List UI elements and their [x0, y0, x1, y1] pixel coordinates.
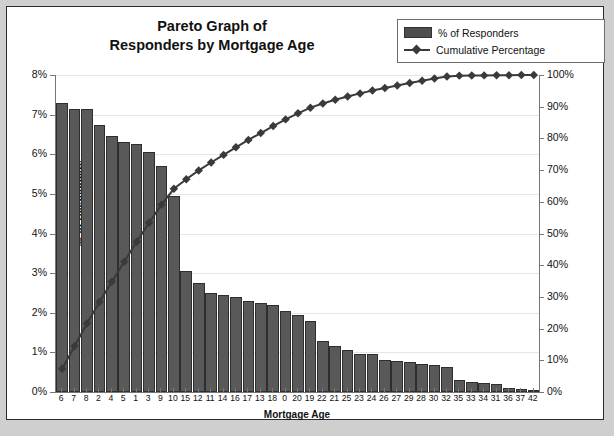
cumulative-line	[62, 75, 534, 369]
y-tick-label: 3%	[17, 266, 47, 278]
x-tick-label: 21	[328, 393, 340, 403]
chart-page: Pareto Graph of Responders by Mortgage A…	[0, 0, 614, 436]
y-tick-mark	[50, 154, 55, 155]
x-tick-mark	[409, 388, 410, 392]
y-tick-mark	[50, 75, 55, 76]
x-tick-label: 23	[353, 393, 365, 403]
y-tick-label: 5%	[17, 187, 47, 199]
diamond-marker	[343, 92, 351, 100]
diamond-marker	[418, 76, 426, 84]
diamond-marker	[443, 72, 451, 80]
x-tick-mark	[496, 388, 497, 392]
diamond-marker	[319, 99, 327, 107]
x-tick-label: 32	[440, 393, 452, 403]
chart-title: Pareto Graph of Responders by Mortgage A…	[47, 17, 377, 55]
x-tick-mark	[446, 388, 447, 392]
x-tick-mark	[98, 388, 99, 392]
secondary-y-tick-mark	[539, 202, 544, 203]
secondary-y-tick-label: 40%	[547, 258, 583, 270]
x-tick-label: 27	[390, 393, 402, 403]
secondary-y-tick-label: 80%	[547, 131, 583, 143]
secondary-y-tick-mark	[539, 329, 544, 330]
x-tick-mark	[148, 388, 149, 392]
y-tick-label: 7%	[17, 108, 47, 120]
chart-legend: % of Responders Cumulative Percentage	[397, 19, 605, 63]
diamond-marker	[58, 365, 66, 373]
x-tick-label: 26	[378, 393, 390, 403]
x-tick-mark	[347, 388, 348, 392]
x-tick-mark	[235, 388, 236, 392]
x-tick-mark	[210, 388, 211, 392]
secondary-y-tick-mark	[539, 360, 544, 361]
chart-title-line1: Pareto Graph of	[47, 17, 377, 36]
x-tick-label: 11	[204, 393, 216, 403]
x-tick-mark	[483, 388, 484, 392]
x-tick-label: 20	[291, 393, 303, 403]
x-tick-label: 35	[452, 393, 464, 403]
x-tick-label: 29	[402, 393, 414, 403]
diamond-marker	[306, 103, 314, 111]
diamond-marker	[455, 71, 463, 79]
diamond-marker	[70, 342, 78, 350]
bar-swatch-icon	[404, 27, 432, 38]
x-tick-mark	[322, 388, 323, 392]
x-tick-label: 1	[129, 393, 141, 403]
x-tick-label: 0	[278, 393, 290, 403]
diamond-marker	[331, 95, 339, 103]
diamond-marker	[381, 84, 389, 92]
y-tick-mark	[50, 234, 55, 235]
diamond-marker	[492, 71, 500, 79]
y-tick-label: 2%	[17, 306, 47, 318]
secondary-y-tick-label: 90%	[547, 100, 583, 112]
secondary-y-tick-mark	[539, 392, 544, 393]
x-tick-label: 13	[254, 393, 266, 403]
secondary-y-tick-label: 20%	[547, 322, 583, 334]
x-tick-mark	[471, 388, 472, 392]
x-tick-label: 25	[340, 393, 352, 403]
y-tick-label: 4%	[17, 227, 47, 239]
x-tick-label: 16	[229, 393, 241, 403]
chart-frame: Pareto Graph of Responders by Mortgage A…	[6, 6, 604, 420]
x-tick-mark	[61, 388, 62, 392]
x-tick-mark	[86, 388, 87, 392]
x-tick-mark	[384, 388, 385, 392]
secondary-y-tick-mark	[539, 138, 544, 139]
secondary-y-tick-mark	[539, 265, 544, 266]
secondary-y-tick-label: 50%	[547, 227, 583, 239]
x-tick-label: 37	[514, 393, 526, 403]
x-tick-mark	[111, 388, 112, 392]
x-tick-mark	[309, 388, 310, 392]
x-tick-mark	[136, 388, 137, 392]
y-tick-label: 1%	[17, 345, 47, 357]
x-tick-label: 31	[489, 393, 501, 403]
diamond-marker	[530, 71, 538, 79]
diamond-marker	[480, 71, 488, 79]
diamond-marker	[430, 74, 438, 82]
x-tick-mark	[74, 388, 75, 392]
secondary-y-tick-label: 10%	[547, 353, 583, 365]
x-tick-label: 10	[167, 393, 179, 403]
x-tick-label: 12	[192, 393, 204, 403]
x-tick-mark	[297, 388, 298, 392]
diamond-marker	[405, 79, 413, 87]
x-axis-label: Mortgage Age	[55, 409, 539, 420]
secondary-y-tick-label: 0%	[547, 385, 583, 397]
plot-area	[55, 75, 540, 393]
x-tick-label: 22	[316, 393, 328, 403]
x-tick-label: 30	[427, 393, 439, 403]
x-tick-mark	[359, 388, 360, 392]
x-tick-mark	[508, 388, 509, 392]
diamond-marker	[294, 109, 302, 117]
x-tick-label: 14	[216, 393, 228, 403]
secondary-y-tick-mark	[539, 107, 544, 108]
diamond-marker	[368, 86, 376, 94]
x-tick-label: 42	[527, 393, 539, 403]
x-tick-mark	[334, 388, 335, 392]
y-tick-mark	[50, 194, 55, 195]
x-tick-mark	[285, 388, 286, 392]
x-tick-mark	[160, 388, 161, 392]
y-tick-label: 6%	[17, 147, 47, 159]
x-tick-mark	[260, 388, 261, 392]
cumulative-line-series	[56, 75, 540, 392]
x-tick-mark	[533, 388, 534, 392]
